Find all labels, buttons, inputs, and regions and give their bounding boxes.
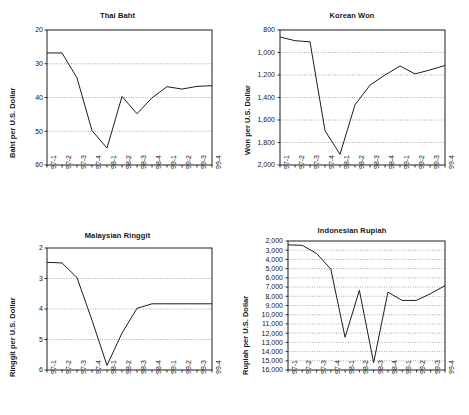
- panel-indonesian-rupiah: Indonesian Rupiah Rupiah per U.S. Dollar…: [235, 205, 469, 415]
- y-tick-label: 2,000: [257, 161, 275, 168]
- x-tick-label: 98-3: [373, 155, 380, 169]
- y-tick-label: 4: [39, 305, 43, 312]
- panel-korean-won: Korean Won Won per U.S. Dollar 8001,0001…: [235, 0, 469, 205]
- y-tick-label: 1,800: [257, 139, 275, 146]
- y-tick-label: 11,000: [262, 320, 283, 327]
- y-tick-label: 6,000: [265, 274, 283, 281]
- y-tick-label: 9,000: [265, 302, 283, 309]
- x-tick-label: 97-2: [65, 155, 72, 169]
- y-tick-label: 3: [39, 275, 43, 282]
- x-tick-label: 97-4: [95, 360, 102, 374]
- x-tick-label: 97-2: [305, 360, 312, 374]
- x-tick-label: 99-2: [419, 360, 426, 374]
- x-tick-label: 97-3: [80, 360, 87, 374]
- series-line-thai-baht: [47, 53, 212, 148]
- x-tick-label: 98-1: [110, 155, 117, 169]
- x-tick-label: 97-1: [283, 155, 290, 169]
- x-tick-label: 98-4: [155, 155, 162, 169]
- series-line-korean-won: [280, 37, 445, 154]
- x-tick-label: 99-2: [418, 155, 425, 169]
- y-tick-label: 800: [263, 26, 275, 33]
- y-tick-label: 4,000: [265, 256, 283, 263]
- y-tick-label: 16,000: [262, 366, 283, 373]
- currency-charts-figure: Thai Baht Baht per U.S. Dollar 203040506…: [0, 0, 469, 415]
- y-tick-label: 8,000: [265, 293, 283, 300]
- x-tick-label: 97-3: [313, 155, 320, 169]
- x-tick-label: 98-1: [110, 360, 117, 374]
- y-tick-label: 7,000: [265, 283, 283, 290]
- y-tick-label: 1,600: [257, 116, 275, 123]
- x-tick-label: 99-3: [433, 155, 440, 169]
- y-tick-label: 50: [35, 128, 43, 135]
- series-line-indonesian-rupiah: [288, 245, 445, 363]
- x-tick-label: 99-1: [170, 155, 177, 169]
- panel-thai-baht: Thai Baht Baht per U.S. Dollar 203040506…: [0, 0, 235, 205]
- x-tick-label: 97-3: [320, 360, 327, 374]
- x-tick-label: 98-3: [140, 155, 147, 169]
- x-tick-label: 99-4: [448, 360, 455, 374]
- x-tick-label: 98-2: [358, 155, 365, 169]
- x-tick-label: 97-4: [334, 360, 341, 374]
- x-tick-label: 99-1: [405, 360, 412, 374]
- x-tick-label: 98-4: [388, 155, 395, 169]
- x-tick-label: 99-4: [215, 360, 222, 374]
- y-tick-label: 60: [35, 161, 43, 168]
- x-tick-label: 98-2: [362, 360, 369, 374]
- x-tick-label: 98-3: [140, 360, 147, 374]
- x-tick-label: 99-1: [170, 360, 177, 374]
- y-tick-label: 12,000: [262, 330, 283, 337]
- y-tick-label: 6: [39, 366, 43, 373]
- y-tick-label: 2,000: [265, 237, 283, 244]
- x-tick-label: 99-1: [403, 155, 410, 169]
- x-tick-label: 98-4: [155, 360, 162, 374]
- chart-canvas-malaysian-ringgit: [0, 205, 235, 415]
- y-tick-label: 40: [35, 94, 43, 101]
- x-tick-label: 99-2: [185, 360, 192, 374]
- x-tick-label: 97-1: [291, 360, 298, 374]
- x-tick-label: 97-1: [50, 360, 57, 374]
- x-tick-label: 97-2: [65, 360, 72, 374]
- y-tick-label: 10,000: [262, 311, 283, 318]
- y-tick-label: 1,200: [257, 71, 275, 78]
- series-line-malaysian-ringgit: [47, 262, 212, 365]
- x-tick-label: 99-2: [185, 155, 192, 169]
- x-tick-label: 98-2: [125, 360, 132, 374]
- x-tick-label: 97-4: [328, 155, 335, 169]
- y-tick-label: 20: [35, 26, 43, 33]
- x-tick-label: 98-2: [125, 155, 132, 169]
- panel-malaysian-ringgit: Malaysian Ringgit Ringgit per U.S. Dolla…: [0, 205, 235, 415]
- y-tick-label: 14,000: [262, 348, 283, 355]
- y-tick-label: 2: [39, 244, 43, 251]
- y-tick-label: 5,000: [265, 265, 283, 272]
- y-tick-label: 15,000: [262, 357, 283, 364]
- plot-frame: [288, 241, 445, 370]
- x-tick-label: 99-4: [448, 155, 455, 169]
- x-tick-label: 97-2: [298, 155, 305, 169]
- x-tick-label: 98-1: [343, 155, 350, 169]
- y-tick-label: 3,000: [265, 247, 283, 254]
- y-tick-label: 5: [39, 336, 43, 343]
- y-tick-label: 13,000: [262, 339, 283, 346]
- x-tick-label: 98-1: [348, 360, 355, 374]
- y-tick-label: 1,000: [257, 49, 275, 56]
- x-tick-label: 97-1: [50, 155, 57, 169]
- y-tick-label: 30: [35, 60, 43, 67]
- x-tick-label: 99-4: [215, 155, 222, 169]
- x-tick-label: 97-3: [80, 155, 87, 169]
- x-tick-label: 99-3: [434, 360, 441, 374]
- y-tick-label: 1,400: [257, 94, 275, 101]
- x-tick-label: 98-3: [377, 360, 384, 374]
- x-tick-label: 99-3: [200, 360, 207, 374]
- x-tick-label: 97-4: [95, 155, 102, 169]
- x-tick-label: 99-3: [200, 155, 207, 169]
- x-tick-label: 98-4: [391, 360, 398, 374]
